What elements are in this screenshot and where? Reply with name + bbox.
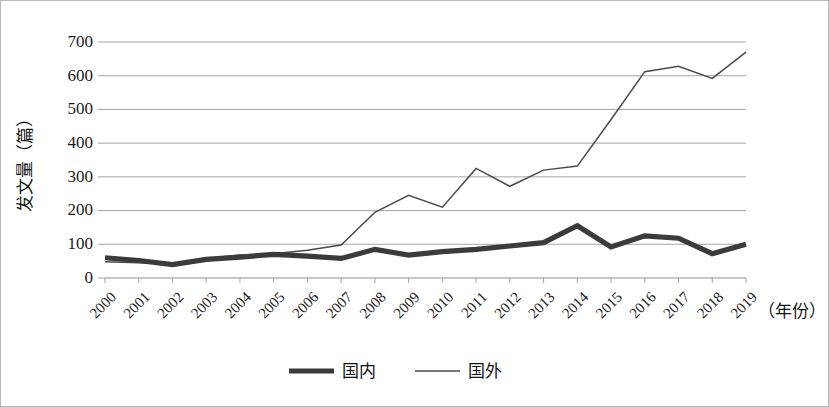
series-line-foreign	[105, 52, 746, 264]
y-axis-title: 发文量（篇）	[15, 110, 35, 212]
series-line-domestic	[105, 226, 746, 265]
y-tick-label-500: 500	[68, 99, 94, 118]
y-tick-label-100: 100	[68, 234, 94, 253]
x-tick-label-2000: 2000	[87, 289, 120, 322]
y-tick-label-700: 700	[68, 32, 94, 51]
x-tick-label-2003: 2003	[188, 289, 221, 322]
x-tick-label-2018: 2018	[694, 289, 727, 322]
x-tick-label-2001: 2001	[120, 289, 153, 322]
x-tick-label-2011: 2011	[458, 289, 490, 321]
y-tick-label-600: 600	[68, 66, 94, 85]
chart-legend: 国内 国外	[289, 361, 502, 381]
x-tick-label-2019: 2019	[728, 289, 761, 322]
x-tick-label-2013: 2013	[525, 289, 558, 322]
x-tick-label-2010: 2010	[424, 289, 457, 322]
x-tick-label-2002: 2002	[154, 289, 187, 322]
x-tick-label-2015: 2015	[593, 289, 626, 322]
x-tick-label-2014: 2014	[559, 288, 592, 321]
x-tick-label-2005: 2005	[255, 289, 288, 322]
x-tick-label-2012: 2012	[491, 289, 524, 322]
y-tick-label-400: 400	[68, 133, 94, 152]
x-axis-title: （年份）	[758, 301, 826, 321]
y-tick-label-200: 200	[68, 200, 94, 219]
x-axis-tick-labels: 2000200120022003200420052006200720082009…	[87, 288, 761, 321]
x-tick-label-2016: 2016	[626, 288, 659, 321]
chart-figure: 0100200300400500600700 20002001200220032…	[0, 0, 829, 407]
y-axis-tick-labels: 0100200300400500600700	[68, 32, 94, 287]
x-tick-label-2008: 2008	[356, 289, 389, 322]
x-tick-label-2004: 2004	[222, 288, 255, 321]
legend-label-domestic: 国内	[342, 361, 376, 381]
line-chart: 0100200300400500600700 20002001200220032…	[1, 1, 829, 407]
y-tick-label-300: 300	[68, 167, 94, 186]
legend-label-foreign: 国外	[468, 361, 502, 381]
x-tick-label-2007: 2007	[323, 288, 356, 321]
x-tick-label-2009: 2009	[390, 289, 423, 322]
y-tick-label-0: 0	[85, 268, 94, 287]
x-tick-label-2006: 2006	[289, 288, 322, 321]
x-tick-label-2017: 2017	[660, 288, 693, 321]
gridlines	[98, 42, 746, 283]
